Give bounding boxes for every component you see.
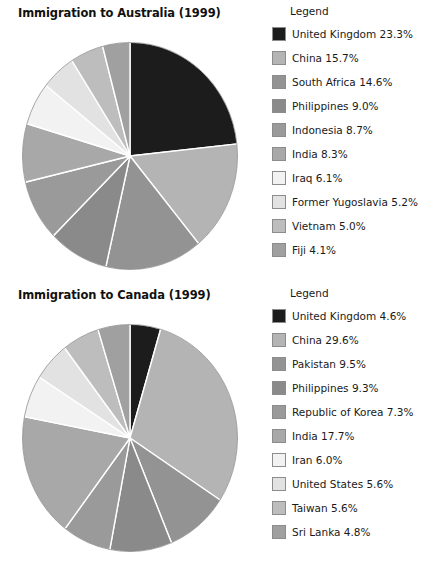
legend-item[interactable]: United Kingdom 4.6% [272, 304, 424, 328]
legend-item[interactable]: United Kingdom 23.3% [272, 22, 424, 46]
legend-title-australia: Legend [290, 4, 424, 18]
legend-item[interactable]: Iraq 6.1% [272, 166, 424, 190]
legend-item-label: United Kingdom 4.6% [292, 310, 406, 322]
legend-swatch-icon [272, 453, 286, 467]
legend-item[interactable]: Taiwan 5.6% [272, 496, 424, 520]
legend-swatch-icon [272, 405, 286, 419]
legend-item[interactable]: Pakistan 9.5% [272, 352, 424, 376]
pie-chart-canada [22, 324, 238, 552]
legend-title-canada: Legend [290, 286, 424, 300]
legend-item-label: Iraq 6.1% [292, 172, 343, 184]
legend-item[interactable]: India 17.7% [272, 424, 424, 448]
legend-item-label: Former Yugoslavia 5.2% [292, 196, 418, 208]
legend-swatch-icon [272, 309, 286, 323]
legend-item-label: Indonesia 8.7% [292, 124, 373, 136]
legend-swatch-icon [272, 525, 286, 539]
legend-item[interactable]: Vietnam 5.0% [272, 214, 424, 238]
legend-item-label: Philippines 9.3% [292, 382, 379, 394]
legend-swatch-icon [272, 333, 286, 347]
pie-svg-australia [22, 42, 238, 270]
legend-item[interactable]: Sri Lanka 4.8% [272, 520, 424, 544]
chart-panel-canada: Immigration to Canada (1999) Legend Unit… [0, 282, 424, 564]
chart-panel-australia: Immigration to Australia (1999) Legend U… [0, 0, 424, 282]
legend-item-label: South Africa 14.6% [292, 76, 393, 88]
legend-item[interactable]: United States 5.6% [272, 472, 424, 496]
legend-swatch-icon [272, 357, 286, 371]
legend-item[interactable]: China 29.6% [272, 328, 424, 352]
legend-item-label: Philippines 9.0% [292, 100, 379, 112]
legend-swatch-icon [272, 99, 286, 113]
page-title-canada: Immigration to Canada (1999) [18, 288, 211, 302]
legend-item-label: United Kingdom 23.3% [292, 28, 413, 40]
legend-item[interactable]: Philippines 9.0% [272, 94, 424, 118]
legend-swatch-icon [272, 477, 286, 491]
legend-item-label: Sri Lanka 4.8% [292, 526, 371, 538]
legend-swatch-icon [272, 123, 286, 137]
legend-swatch-icon [272, 501, 286, 515]
legend-item-label: Iran 6.0% [292, 454, 343, 466]
legend-swatch-icon [272, 219, 286, 233]
legend-item-label: China 15.7% [292, 52, 359, 64]
legend-swatch-icon [272, 243, 286, 257]
pie-chart-australia [22, 42, 238, 270]
legend-swatch-icon [272, 147, 286, 161]
legend-item-label: Vietnam 5.0% [292, 220, 366, 232]
legend-item[interactable]: India 8.3% [272, 142, 424, 166]
legend-item[interactable]: Indonesia 8.7% [272, 118, 424, 142]
legend-item-label: India 17.7% [292, 430, 354, 442]
legend-swatch-icon [272, 429, 286, 443]
legend-item[interactable]: Philippines 9.3% [272, 376, 424, 400]
page-title-australia: Immigration to Australia (1999) [18, 6, 221, 20]
legend-swatch-icon [272, 27, 286, 41]
legend-rows-canada: United Kingdom 4.6%China 29.6%Pakistan 9… [272, 304, 424, 544]
pie-svg-canada [22, 324, 238, 552]
legend-swatch-icon [272, 195, 286, 209]
legend-item-label: India 8.3% [292, 148, 348, 160]
legend-australia: Legend United Kingdom 23.3%China 15.7%So… [272, 4, 424, 262]
legend-item[interactable]: South Africa 14.6% [272, 70, 424, 94]
legend-item[interactable]: Republic of Korea 7.3% [272, 400, 424, 424]
legend-rows-australia: United Kingdom 23.3%China 15.7%South Afr… [272, 22, 424, 262]
legend-swatch-icon [272, 171, 286, 185]
legend-item[interactable]: Former Yugoslavia 5.2% [272, 190, 424, 214]
legend-item[interactable]: China 15.7% [272, 46, 424, 70]
legend-swatch-icon [272, 381, 286, 395]
legend-item[interactable]: Iran 6.0% [272, 448, 424, 472]
legend-swatch-icon [272, 75, 286, 89]
legend-canada: Legend United Kingdom 4.6%China 29.6%Pak… [272, 286, 424, 544]
legend-item-label: Taiwan 5.6% [292, 502, 358, 514]
legend-item-label: Pakistan 9.5% [292, 358, 366, 370]
legend-item[interactable]: Fiji 4.1% [272, 238, 424, 262]
legend-item-label: Fiji 4.1% [292, 244, 336, 256]
legend-swatch-icon [272, 51, 286, 65]
legend-item-label: United States 5.6% [292, 478, 393, 490]
legend-item-label: Republic of Korea 7.3% [292, 406, 413, 418]
pie-slice[interactable] [130, 42, 237, 156]
legend-item-label: China 29.6% [292, 334, 359, 346]
